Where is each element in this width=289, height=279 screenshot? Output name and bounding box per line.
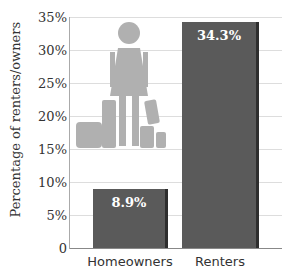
traveler-luggage-icon <box>74 22 170 152</box>
y-axis-label: Percentage of renters/owners <box>8 48 23 218</box>
y-axis <box>69 17 70 249</box>
y-tick: 25% <box>27 76 67 91</box>
value-label: 8.9% <box>93 195 165 210</box>
y-tick: 10% <box>27 175 67 190</box>
gridline <box>70 17 282 18</box>
bar-homeowners: 8.9% <box>93 189 168 248</box>
y-tick: 30% <box>27 43 67 58</box>
y-tick: 5% <box>27 208 67 223</box>
x-axis <box>70 248 282 249</box>
x-tick-renters: Renters <box>170 254 270 269</box>
y-tick: 0 <box>27 241 67 256</box>
y-tick: 15% <box>27 142 67 157</box>
bar-renters: 34.3% <box>182 22 259 248</box>
value-label: 34.3% <box>182 28 256 43</box>
x-tick-homeowners: Homeowners <box>80 254 180 269</box>
y-tick: 35% <box>27 10 67 25</box>
y-tick: 20% <box>27 109 67 124</box>
